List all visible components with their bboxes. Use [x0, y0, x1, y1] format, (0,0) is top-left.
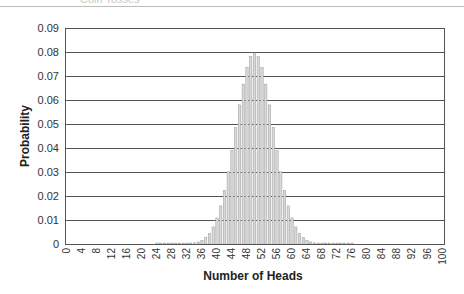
bar [253, 53, 255, 244]
x-tick-label: 52 [256, 248, 267, 260]
bar [178, 243, 180, 244]
bar [332, 243, 334, 244]
bar [216, 218, 218, 244]
x-tick-label: 48 [241, 248, 252, 260]
binomial-bar-chart: 00.010.020.030.040.050.060.070.080.09 04… [0, 0, 464, 294]
y-tick-label: 0.06 [38, 94, 59, 106]
bar [287, 206, 289, 244]
bar [182, 243, 184, 244]
bar [193, 243, 195, 244]
x-tick-label: 36 [196, 248, 207, 260]
bar [340, 243, 342, 244]
x-tick-label: 100 [437, 248, 448, 265]
bar [310, 242, 312, 244]
bar [272, 128, 274, 244]
bar [295, 227, 297, 244]
x-tick-label: 56 [271, 248, 282, 260]
bar [283, 191, 285, 245]
x-tick-label: 24 [151, 248, 162, 260]
bar [227, 172, 229, 244]
bar [317, 243, 319, 244]
y-tick-label: 0.04 [38, 142, 59, 154]
bar [235, 128, 237, 244]
bar [242, 84, 244, 244]
bar [208, 233, 210, 244]
x-axis-title: Number of Heads [203, 269, 303, 283]
bar [160, 243, 162, 244]
bar [250, 57, 252, 244]
bar [347, 243, 349, 244]
y-tick-label: 0.08 [38, 46, 59, 58]
y-tick-label: 0.09 [38, 22, 59, 34]
bar [280, 172, 282, 244]
x-tick-label: 60 [286, 248, 297, 260]
x-tick-label: 64 [301, 248, 312, 260]
x-tick-label: 88 [391, 248, 402, 260]
bar [257, 57, 259, 244]
x-tick-label: 72 [331, 248, 342, 260]
bar [223, 191, 225, 245]
x-tick-label: 8 [91, 248, 102, 254]
bar [231, 151, 233, 244]
bar [238, 105, 240, 244]
y-tick-label: 0.03 [38, 166, 59, 178]
bar [175, 243, 177, 244]
x-tick-label: 84 [376, 248, 387, 260]
bar [336, 243, 338, 244]
x-tick-label: 28 [166, 248, 177, 260]
bar [291, 218, 293, 244]
x-tick-label: 0 [61, 248, 72, 254]
x-tick-label: 96 [422, 248, 433, 260]
x-tick-label: 80 [361, 248, 372, 260]
bar [201, 240, 203, 244]
bar [321, 243, 323, 244]
x-tick-label: 76 [346, 248, 357, 260]
bar [190, 243, 192, 244]
bar [167, 243, 169, 244]
x-tick-label: 16 [121, 248, 132, 260]
bar [163, 243, 165, 244]
bar [171, 243, 173, 244]
y-tick-label: 0.02 [38, 190, 59, 202]
bar [205, 238, 207, 245]
x-tick-label: 40 [211, 248, 222, 260]
bar [306, 240, 308, 244]
bar [268, 105, 270, 244]
x-tick-label: 68 [316, 248, 327, 260]
x-axis-ticks: 0481216202428323640444852566064687276808… [61, 248, 448, 265]
y-tick-label: 0.05 [38, 118, 59, 130]
bar [302, 238, 304, 245]
bar [325, 243, 327, 244]
x-tick-label: 4 [76, 248, 87, 254]
bar [276, 151, 278, 244]
y-tick-label: 0.07 [38, 70, 59, 82]
bar [313, 243, 315, 244]
y-tick-label: 0 [53, 238, 59, 250]
bar [298, 233, 300, 244]
y-axis-ticks: 00.010.020.030.040.050.060.070.080.09 [38, 22, 59, 250]
bar [328, 243, 330, 244]
bar [261, 68, 263, 244]
y-tick-label: 0.01 [38, 214, 59, 226]
bar [186, 243, 188, 244]
y-axis-title: Probability [18, 105, 32, 167]
bar [265, 84, 267, 244]
bar [156, 243, 158, 244]
bar [343, 243, 345, 244]
bar [220, 206, 222, 244]
x-tick-label: 44 [226, 248, 237, 260]
bar [212, 227, 214, 244]
bar [351, 243, 353, 244]
bar [197, 242, 199, 244]
bar [246, 68, 248, 244]
x-tick-label: 92 [406, 248, 417, 260]
x-tick-label: 12 [106, 248, 117, 260]
x-tick-label: 32 [181, 248, 192, 260]
x-tick-label: 20 [136, 248, 147, 260]
